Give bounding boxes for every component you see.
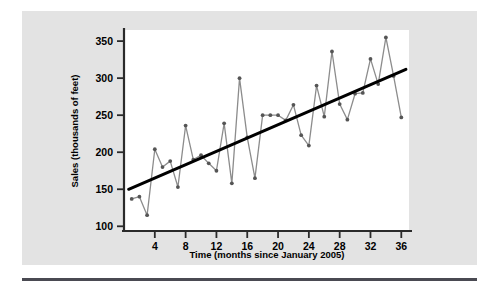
data-point-marker: [315, 84, 319, 88]
data-point-marker: [222, 121, 226, 125]
data-point-marker: [253, 176, 257, 180]
data-point-marker: [145, 213, 149, 217]
x-tick-label: 4: [152, 240, 158, 252]
x-axis-title: Time (months since January 2005): [189, 249, 344, 260]
data-point-marker: [338, 102, 342, 106]
data-point-marker: [292, 103, 296, 107]
y-tick-label: 200: [95, 146, 113, 158]
data-point-marker: [138, 195, 142, 199]
data-point-marker: [330, 50, 334, 54]
x-tick-label: 32: [365, 240, 377, 252]
data-point-marker: [399, 116, 403, 120]
y-axis-title: Sales (thousands of feet): [69, 75, 80, 188]
y-tick-label: 250: [95, 109, 113, 121]
y-axis-tick-labels: 100150200250300350: [95, 35, 113, 232]
data-point-marker: [215, 169, 219, 173]
data-point-marker: [299, 133, 303, 137]
data-point-marker: [168, 159, 172, 163]
data-point-marker: [238, 76, 242, 80]
data-point-marker: [369, 57, 373, 61]
x-axis: 4812162024283236 Time (months since Janu…: [122, 231, 412, 260]
data-point-marker: [261, 113, 265, 117]
data-point-marker: [207, 161, 211, 165]
data-point-marker: [276, 113, 280, 117]
data-point-marker: [161, 165, 165, 169]
data-point-marker: [230, 181, 234, 185]
data-point-marker: [307, 144, 311, 148]
x-tick-label: 8: [183, 240, 189, 252]
y-tick-label: 150: [95, 183, 113, 195]
y-tick-label: 100: [95, 220, 113, 232]
figure-container: 100150200250300350 Sales (thousands of f…: [0, 0, 485, 295]
data-point-marker: [184, 124, 188, 128]
data-point-marker: [384, 36, 388, 40]
y-tick-label: 350: [95, 35, 113, 47]
data-point-marker: [345, 118, 349, 122]
data-point-marker: [130, 197, 134, 201]
data-point-marker: [176, 185, 180, 189]
data-point-marker: [153, 147, 157, 151]
data-point-marker: [268, 113, 272, 117]
y-tick-label: 300: [95, 72, 113, 84]
data-point-marker: [322, 115, 326, 119]
sales-time-series-chart: 100150200250300350 Sales (thousands of f…: [0, 0, 485, 295]
data-point-marker: [361, 91, 365, 95]
y-axis: 100150200250300350 Sales (thousands of f…: [69, 28, 124, 232]
x-tick-label: 36: [395, 240, 407, 252]
